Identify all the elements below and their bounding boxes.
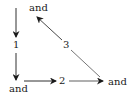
node-bottom-left: and [9, 84, 28, 94]
edge-3-label: 3 [63, 40, 69, 50]
node-top: and [29, 3, 48, 13]
edge-2-label: 2 [59, 76, 65, 86]
node-bottom-right: and [108, 77, 127, 87]
cycle-diagram: and and and 1 2 3 [0, 0, 133, 96]
edge-1-label: 1 [13, 40, 19, 50]
